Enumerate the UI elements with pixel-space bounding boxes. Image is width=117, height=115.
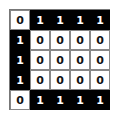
binary-grid: 0111110000100001000001111 xyxy=(9,9,110,110)
grid-cell: 0 xyxy=(50,70,70,90)
grid-cell: 0 xyxy=(30,30,50,50)
grid-cell: 0 xyxy=(10,10,30,30)
grid-cell: 0 xyxy=(90,50,110,70)
grid-cell: 0 xyxy=(70,70,90,90)
grid-cell: 0 xyxy=(50,30,70,50)
grid-cell: 0 xyxy=(70,30,90,50)
grid-cell: 0 xyxy=(10,90,30,110)
grid-cell: 1 xyxy=(90,10,110,30)
grid-cell: 0 xyxy=(90,30,110,50)
grid-cell: 0 xyxy=(30,50,50,70)
grid-cell: 1 xyxy=(10,50,30,70)
grid-cell: 0 xyxy=(90,70,110,90)
grid-cell: 1 xyxy=(10,30,30,50)
grid-cell: 0 xyxy=(30,70,50,90)
grid-cell: 1 xyxy=(90,90,110,110)
grid-cell: 0 xyxy=(50,50,70,70)
grid-cell: 1 xyxy=(70,10,90,30)
grid-cell: 1 xyxy=(50,90,70,110)
grid-cell: 1 xyxy=(70,90,90,110)
grid-cell: 1 xyxy=(30,90,50,110)
grid-cell: 1 xyxy=(50,10,70,30)
grid-cell: 0 xyxy=(70,50,90,70)
grid-cell: 1 xyxy=(30,10,50,30)
grid-cell: 1 xyxy=(10,70,30,90)
